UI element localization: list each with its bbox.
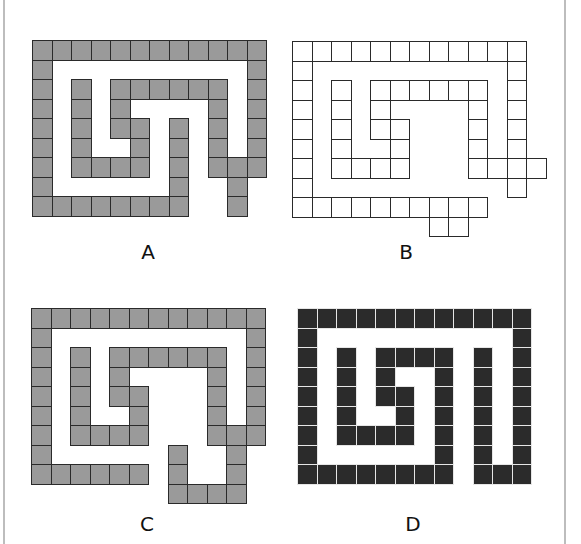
grid-cell bbox=[247, 79, 268, 100]
grid-cell bbox=[246, 308, 267, 329]
grid-cell bbox=[109, 308, 130, 329]
grid-cell bbox=[109, 367, 130, 388]
grid-cell bbox=[375, 308, 396, 329]
grid-cell bbox=[370, 80, 391, 101]
grid-cell bbox=[130, 40, 151, 61]
grid-cell bbox=[448, 80, 469, 101]
grid-cell bbox=[390, 158, 411, 179]
grid-cell bbox=[336, 367, 357, 388]
grid-cell bbox=[375, 425, 396, 446]
grid-cell bbox=[169, 40, 190, 61]
grid-cell bbox=[32, 118, 53, 139]
grid-cell bbox=[188, 40, 209, 61]
grid-cell bbox=[109, 386, 130, 407]
grid-cell bbox=[227, 157, 248, 178]
grid-cell bbox=[356, 425, 377, 446]
grid-cell bbox=[208, 138, 229, 159]
grid-cell bbox=[292, 100, 313, 121]
grid-cell bbox=[208, 40, 229, 61]
grid-cell bbox=[473, 367, 494, 388]
grid-cell bbox=[130, 79, 151, 100]
grid-cell bbox=[32, 60, 53, 81]
grid-cell bbox=[473, 386, 494, 407]
grid-cell bbox=[292, 80, 313, 101]
grid-cell bbox=[129, 386, 150, 407]
grid-cell bbox=[70, 386, 91, 407]
grid-cell bbox=[208, 118, 229, 139]
grid-cell bbox=[512, 425, 533, 446]
grid-cell bbox=[351, 158, 372, 179]
grid-cell bbox=[188, 79, 209, 100]
grid-cell bbox=[292, 178, 313, 199]
panel-d-label: D bbox=[393, 512, 433, 536]
grid-cell bbox=[292, 119, 313, 140]
grid-cell bbox=[71, 157, 92, 178]
grid-cell bbox=[226, 484, 247, 505]
grid-cell bbox=[468, 80, 489, 101]
grid-cell bbox=[32, 79, 53, 100]
grid-cell bbox=[297, 367, 318, 388]
grid-cell bbox=[91, 157, 112, 178]
grid-cell bbox=[297, 464, 318, 485]
grid-cell bbox=[448, 41, 469, 62]
grid-cell bbox=[434, 367, 455, 388]
grid-cell bbox=[331, 158, 352, 179]
grid-cell bbox=[52, 40, 73, 61]
grid-cell bbox=[434, 425, 455, 446]
grid-cell bbox=[32, 99, 53, 120]
grid-cell bbox=[129, 308, 150, 329]
grid-cell bbox=[414, 347, 435, 368]
grid-cell bbox=[414, 308, 435, 329]
grid-cell bbox=[434, 386, 455, 407]
grid-cell bbox=[207, 308, 228, 329]
grid-cell bbox=[246, 425, 267, 446]
grid-cell bbox=[187, 347, 208, 368]
grid-cell bbox=[227, 177, 248, 198]
grid-cell bbox=[512, 328, 533, 349]
grid-cell bbox=[90, 425, 111, 446]
grid-cell bbox=[429, 80, 450, 101]
grid-cell bbox=[208, 157, 229, 178]
grid-cell bbox=[110, 196, 131, 217]
grid-cell bbox=[375, 347, 396, 368]
grid-cell bbox=[468, 197, 489, 218]
grid-cell bbox=[149, 79, 170, 100]
grid-cell bbox=[448, 217, 469, 238]
grid-cell bbox=[207, 406, 228, 427]
grid-cell bbox=[130, 118, 151, 139]
grid-cell bbox=[207, 484, 228, 505]
grid-cell bbox=[507, 178, 528, 199]
grid-cell bbox=[297, 386, 318, 407]
grid-cell bbox=[246, 386, 267, 407]
grid-cell bbox=[31, 406, 52, 427]
grid-cell bbox=[292, 41, 313, 62]
grid-cell bbox=[336, 386, 357, 407]
grid-cell bbox=[168, 445, 189, 466]
grid-cell bbox=[70, 347, 91, 368]
grid-cell bbox=[331, 80, 352, 101]
grid-cell bbox=[247, 60, 268, 81]
grid-cell bbox=[370, 41, 391, 62]
panel-c-label: C bbox=[127, 512, 167, 536]
grid-cell bbox=[448, 197, 469, 218]
grid-cell bbox=[434, 464, 455, 485]
grid-cell bbox=[71, 99, 92, 120]
grid-cell bbox=[71, 40, 92, 61]
grid-cell bbox=[487, 41, 508, 62]
grid-cell bbox=[487, 158, 508, 179]
grid-cell bbox=[90, 464, 111, 485]
grid-cell bbox=[512, 464, 533, 485]
grid-cell bbox=[130, 138, 151, 159]
grid-cell bbox=[473, 347, 494, 368]
grid-cell bbox=[31, 386, 52, 407]
grid-cell bbox=[208, 99, 229, 120]
grid-cell bbox=[91, 40, 112, 61]
grid-cell bbox=[109, 464, 130, 485]
grid-cell bbox=[226, 445, 247, 466]
grid-cell bbox=[395, 386, 416, 407]
grid-cell bbox=[336, 425, 357, 446]
grid-cell bbox=[31, 367, 52, 388]
grid-cell bbox=[70, 464, 91, 485]
grid-cell bbox=[169, 196, 190, 217]
grid-cell bbox=[297, 347, 318, 368]
